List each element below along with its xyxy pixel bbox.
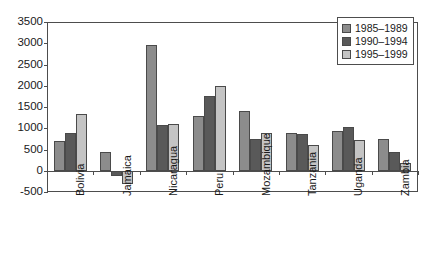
bar [332,131,343,171]
bar [378,139,389,171]
bar [146,45,157,170]
x-axis-tick-mark [279,171,280,175]
bar [215,86,226,171]
bar [204,96,215,170]
x-axis-tick-mark [93,171,94,175]
x-axis-label-jamaica: Jamaica [122,155,133,196]
legend-swatch-icon [342,50,351,59]
legend-swatch-icon [342,37,351,46]
y-axis-tick-label: 2000 [0,80,43,91]
y-axis-tick-label: 1500 [0,101,43,112]
x-axis-label-nicaragua: Nicaragua [168,146,179,196]
x-axis-tick-mark [325,171,326,175]
bar [54,141,65,171]
x-axis-label-mozambique: Mozambique [261,133,272,196]
x-axis-label-bolivia: Bolivia [75,164,86,196]
y-axis-tick-label: 1000 [0,122,43,133]
bar [286,133,297,170]
bar-chart: 3500300025002000150010005000-500 Bolivia… [0,0,432,266]
y-axis-tick-label: -500 [0,186,43,197]
x-axis-tick-mark [140,171,141,175]
x-axis-tick-mark [372,171,373,175]
y-axis-tick-label: 2500 [0,59,43,70]
legend-item: 1985–1989 [342,22,408,34]
legend-swatch-icon [342,24,351,33]
legend-label: 1985–1989 [355,23,408,34]
y-axis-tick-label: 0 [0,165,43,176]
x-axis-label-peru: Peru [214,173,225,196]
y-axis-tick-label: 500 [0,144,43,155]
bar [193,116,204,171]
x-axis-label-tanzania: Tanzania [307,152,318,196]
x-axis-label-zambia: Zambia [400,159,411,196]
x-axis-tick-mark [186,171,187,175]
legend-item: 1990–1994 [342,35,408,47]
bar [239,111,250,171]
y-axis-tick-label: 3500 [0,16,43,27]
bar [100,152,111,171]
y-axis-tick-mark [44,192,48,193]
legend-item: 1995–1999 [342,48,408,60]
legend-label: 1995–1999 [355,49,408,60]
x-axis-tick-mark [418,171,419,175]
x-axis-tick-mark [233,171,234,175]
legend: 1985–19891990–19941995–1999 [337,17,414,65]
legend-label: 1990–1994 [355,36,408,47]
bar [76,114,87,171]
x-axis-label-uganda: Uganda [353,157,364,196]
y-axis-tick-label: 3000 [0,37,43,48]
